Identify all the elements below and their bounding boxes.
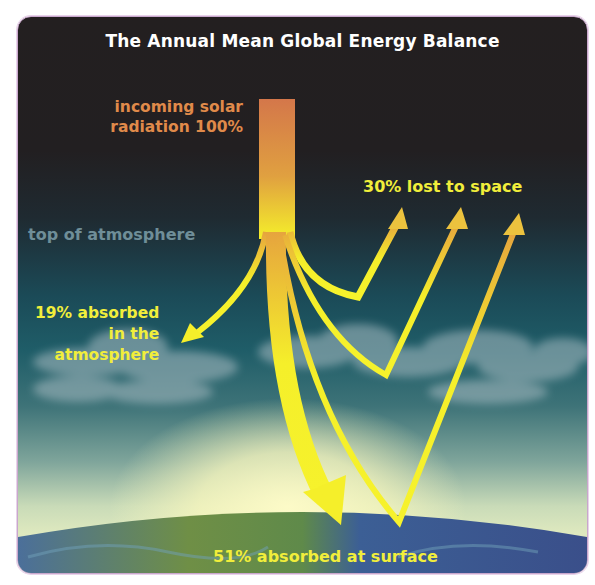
lost-space-arrowhead-1 [388,207,408,229]
incoming-line-1: incoming solar [110,97,243,117]
incoming-radiation-trunk [259,99,295,239]
top-of-atmosphere-label: top of atmosphere [28,225,195,244]
diagram-title: The Annual Mean Global Energy Balance [18,31,587,51]
incoming-solar-label: incoming solar radiation 100% [110,97,243,137]
absorbed-atm-line-2: in the [35,324,159,345]
absorbed-atmosphere-label: 19% absorbed in the atmosphere [35,303,159,366]
absorbed-atm-line-1: 19% absorbed [35,303,159,324]
diagram-artwork [18,17,587,573]
energy-balance-diagram: The Annual Mean Global Energy Balance in… [17,16,588,574]
lost-to-space-label: 30% lost to space [363,177,522,196]
absorbed-surface-label: 51% absorbed at surface [213,547,438,566]
lost-space-arrowhead-3 [503,213,525,235]
lost-space-arrowhead-2 [446,207,468,229]
incoming-line-2: radiation 100% [110,117,243,137]
absorbed-atm-line-3: atmosphere [35,345,159,366]
